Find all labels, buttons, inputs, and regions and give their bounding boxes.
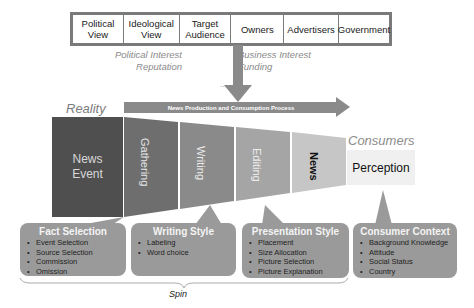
writing-style-title: Writing Style: [137, 226, 230, 237]
list-item: Size Allocation: [248, 248, 343, 258]
list-item: Background Knowledge: [359, 238, 451, 248]
consumer-context-title: Consumer Context: [359, 226, 451, 237]
list-item: Picture Selection: [248, 257, 343, 267]
presentation-style-pointer: [262, 205, 285, 225]
consumer-context-box: Consumer Context Background Knowledge At…: [353, 223, 457, 278]
list-item: Placement: [248, 238, 343, 248]
list-item: Event Selection: [26, 238, 120, 248]
fact-selection-title: Fact Selection: [26, 226, 120, 237]
writing-style-pointer: [195, 205, 222, 225]
writing-style-box: Writing Style Labeling Word choice: [131, 223, 236, 276]
spin-brace: [20, 278, 348, 288]
list-item: Social Status: [359, 257, 451, 267]
list-item: Commission: [26, 257, 120, 267]
presentation-style-box: Presentation Style Placement Size Alloca…: [242, 223, 349, 278]
presentation-style-title: Presentation Style: [248, 226, 343, 237]
list-item: Picture Explanation: [248, 267, 343, 277]
list-item: Attitude: [359, 248, 451, 258]
fact-selection-box: Fact Selection Event Selection Source Se…: [20, 223, 126, 276]
list-item: Labeling: [137, 238, 230, 248]
list-item: Omission: [26, 267, 120, 277]
spin-label: Spin: [169, 289, 187, 299]
list-item: Word choice: [137, 248, 230, 258]
list-item: Source Selection: [26, 248, 120, 258]
consumer-context-pointer: [375, 190, 392, 225]
list-item: Country: [359, 267, 451, 277]
